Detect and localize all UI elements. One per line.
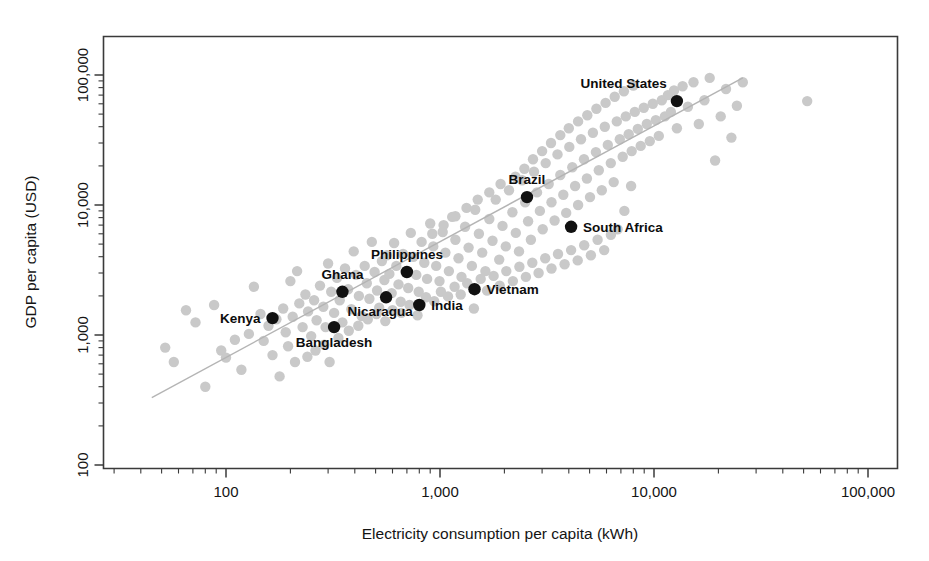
- data-point: [463, 242, 473, 252]
- data-point: [688, 77, 698, 87]
- point-label: United States: [581, 76, 667, 91]
- data-point: [354, 291, 364, 301]
- data-point: [630, 107, 640, 117]
- data-point: [694, 119, 704, 129]
- data-point: [292, 266, 302, 276]
- data-point: [473, 194, 483, 204]
- data-point: [367, 237, 377, 247]
- data-point: [553, 249, 563, 259]
- data-point: [476, 274, 486, 284]
- data-point: [527, 258, 537, 268]
- data-point: [612, 116, 622, 126]
- data-point: [453, 253, 463, 263]
- data-point: [297, 322, 307, 332]
- data-point: [274, 371, 284, 381]
- data-point: [406, 228, 416, 238]
- y-axis-title: GDP per capita (USD): [22, 175, 39, 328]
- data-point: [501, 266, 511, 276]
- point-label: Bangladesh: [296, 335, 373, 350]
- data-point: [474, 229, 484, 239]
- data-point: [606, 158, 616, 168]
- data-point: [566, 245, 576, 255]
- data-point: [309, 295, 319, 305]
- x-tick-label: 10,000: [631, 483, 677, 500]
- data-point: [364, 294, 374, 304]
- data-point: [497, 221, 507, 231]
- data-point: [326, 287, 336, 297]
- data-point: [705, 73, 715, 83]
- data-point: [576, 134, 586, 144]
- point-label: Vietnam: [487, 282, 539, 297]
- data-point: [422, 274, 432, 284]
- data-point: [567, 162, 577, 172]
- data-point: [528, 154, 538, 164]
- highlighted-data-point: [565, 221, 577, 233]
- highlighted-data-point: [521, 191, 533, 203]
- data-point: [353, 321, 363, 331]
- data-point: [514, 262, 524, 272]
- y-tick-label: 1,000: [74, 316, 91, 354]
- data-point: [732, 101, 742, 111]
- data-point: [431, 261, 441, 271]
- data-point: [558, 190, 568, 200]
- data-point: [579, 240, 589, 250]
- data-point: [427, 229, 437, 239]
- data-point: [610, 92, 620, 102]
- data-point: [546, 138, 556, 148]
- point-label: Kenya: [220, 311, 261, 326]
- data-point: [285, 276, 295, 286]
- highlighted-data-point: [401, 266, 413, 278]
- x-tick-label: 1,000: [421, 483, 459, 500]
- data-point: [160, 342, 170, 352]
- data-point: [573, 116, 583, 126]
- data-point: [648, 99, 658, 109]
- data-point: [549, 215, 559, 225]
- data-point: [621, 111, 631, 121]
- data-point: [169, 357, 179, 367]
- data-point: [393, 279, 403, 289]
- data-point: [438, 220, 448, 230]
- data-point: [552, 149, 562, 159]
- data-point: [599, 245, 609, 255]
- data-point: [488, 271, 498, 281]
- data-point: [311, 315, 321, 325]
- point-label: Philippines: [371, 247, 443, 262]
- data-point: [425, 218, 435, 228]
- data-point: [802, 96, 812, 106]
- data-point: [403, 283, 413, 293]
- data-point: [636, 141, 646, 151]
- data-point: [523, 216, 533, 226]
- data-point: [494, 254, 504, 264]
- data-point: [487, 236, 497, 246]
- data-point: [561, 208, 571, 218]
- data-point: [582, 110, 592, 120]
- highlighted-data-point: [671, 95, 683, 107]
- data-point: [677, 81, 687, 91]
- data-point: [278, 303, 288, 313]
- data-point: [591, 104, 601, 114]
- data-point: [600, 122, 610, 132]
- data-point: [645, 136, 655, 146]
- highlighted-data-point: [336, 286, 348, 298]
- data-point: [501, 241, 511, 251]
- data-point: [546, 263, 556, 273]
- data-point: [538, 224, 548, 234]
- data-point: [470, 205, 480, 215]
- scatter-plot-svg: KenyaBangladeshGhanaNicaraguaIndiaPhilip…: [0, 0, 929, 561]
- data-point: [200, 382, 210, 392]
- data-point: [521, 272, 531, 282]
- x-axis-title: Electricity consumption per capita (kWh): [362, 525, 639, 542]
- highlighted-data-point: [328, 321, 340, 333]
- data-point: [444, 266, 454, 276]
- highlighted-data-point: [413, 299, 425, 311]
- data-point: [461, 203, 471, 213]
- data-point: [618, 152, 628, 162]
- data-point: [541, 158, 551, 168]
- data-point: [372, 285, 382, 295]
- data-point: [511, 228, 521, 238]
- chart-figure: KenyaBangladeshGhanaNicaraguaIndiaPhilip…: [0, 0, 929, 561]
- data-point: [450, 235, 460, 245]
- data-point: [283, 341, 293, 351]
- data-point: [726, 132, 736, 142]
- data-point: [609, 177, 619, 187]
